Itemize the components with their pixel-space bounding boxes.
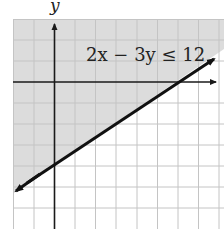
y-axis-label: y	[49, 0, 60, 15]
inequality-label: 2x − 3y ≤ 12	[86, 44, 205, 65]
inequality-graph: y 2x − 3y ≤ 12	[0, 0, 224, 229]
